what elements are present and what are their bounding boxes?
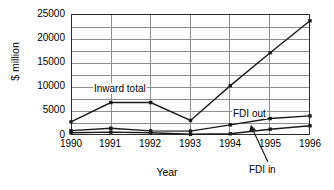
plot-area [71,14,310,135]
x-tick-1993: 1993 [179,138,201,150]
gridline-v-1994 [229,15,230,134]
x-tick-1990: 1990 [60,138,82,150]
x-axis-tick-labels: 1990 1991 1992 1993 1994 1995 1996 [0,138,334,152]
y-tick-25000: 25000 [37,9,65,19]
annotation-inward-total: Inward total [93,83,147,94]
line-chart: $ million 25000 20000 15000 10000 5000 0 [0,0,334,190]
x-tick-1994: 1994 [219,138,241,150]
y-tick-5000: 5000 [43,105,65,115]
x-tick-1996: 1996 [299,138,321,150]
gridline-v-1993 [190,15,191,134]
annotation-fdi-out: FDI out [232,108,267,119]
x-tick-1992: 1992 [139,138,161,150]
gridline-v-1995 [269,15,270,134]
y-axis-tick-labels: 25000 20000 15000 10000 5000 0 [0,0,68,190]
x-axis-title: Year [0,166,334,178]
x-tick-1991: 1991 [99,138,121,150]
x-tick-1995: 1995 [259,138,281,150]
gridline-v-1991 [111,15,112,134]
gridline-v-1992 [150,15,151,134]
y-tick-15000: 15000 [37,57,65,67]
y-tick-20000: 20000 [37,33,65,43]
y-tick-10000: 10000 [37,81,65,91]
